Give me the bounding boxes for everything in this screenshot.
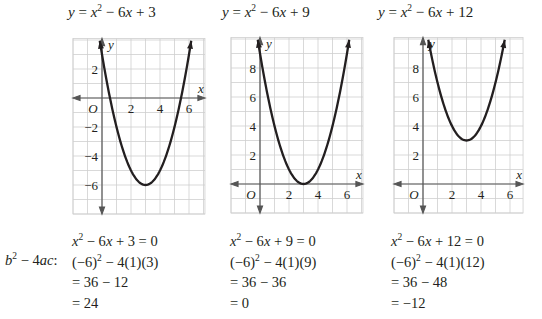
calc-sub-end: − 4(1)(3) bbox=[102, 254, 159, 270]
calculation-3: x2 − 6x + 12 = 0 (−6)2 − 4(1)(12) = 36 −… bbox=[391, 231, 485, 313]
calc-sub-end: − 4(1)(12) bbox=[421, 254, 485, 270]
x-axis-arrow-right-icon bbox=[516, 182, 523, 187]
calc-base: (−6) bbox=[391, 254, 416, 270]
calc-equation: x2 − 6x + 3 = 0 bbox=[72, 231, 158, 252]
x-tick-label: 6 bbox=[507, 187, 514, 202]
origin-label: O bbox=[409, 187, 419, 202]
discriminant-label: b2 − 4ac: bbox=[5, 252, 57, 269]
calc-result: = −12 bbox=[391, 293, 485, 314]
calc-step: = 36 − 36 bbox=[230, 272, 316, 293]
calc-step: = 36 − 12 bbox=[72, 272, 158, 293]
y-tick-label: 4 bbox=[413, 119, 420, 134]
calc-mid: − 6 bbox=[241, 233, 264, 249]
disc-ac: ac bbox=[40, 252, 54, 268]
calc-end: + 3 = 0 bbox=[112, 233, 157, 249]
calc-base: (−6) bbox=[72, 254, 97, 270]
calc-sub-end: − 4(1)(9) bbox=[260, 254, 317, 270]
calc-step: = 36 − 48 bbox=[391, 272, 485, 293]
calc-result: = 24 bbox=[72, 293, 158, 314]
y-tick-label: 8 bbox=[413, 61, 420, 76]
y-tick-label: 6 bbox=[413, 90, 420, 105]
calc-substitution: (−6)2 − 4(1)(3) bbox=[72, 252, 158, 273]
calc-substitution: (−6)2 − 4(1)(9) bbox=[230, 252, 316, 273]
calc-mid: − 6 bbox=[402, 233, 425, 249]
calc-end: + 12 = 0 bbox=[431, 233, 484, 249]
x-tick-label: 4 bbox=[478, 187, 485, 202]
x-axis-label: x bbox=[515, 167, 522, 182]
x-tick-label: 2 bbox=[449, 187, 456, 202]
calc-substitution: (−6)2 − 4(1)(12) bbox=[391, 252, 485, 273]
disc-colon: : bbox=[53, 252, 57, 268]
calc-base: (−6) bbox=[230, 254, 255, 270]
calc-equation: x2 − 6x + 9 = 0 bbox=[230, 231, 316, 252]
calc-mid: − 6 bbox=[83, 233, 106, 249]
calc-result: = 0 bbox=[230, 293, 316, 314]
calc-end: + 9 = 0 bbox=[270, 233, 315, 249]
calculation-2: x2 − 6x + 9 = 0 (−6)2 − 4(1)(9) = 36 − 3… bbox=[230, 231, 316, 313]
y-axis-arrow-down-icon bbox=[421, 206, 426, 213]
x-axis-arrow-left-icon bbox=[394, 182, 401, 187]
disc-minus-4: − 4 bbox=[17, 252, 40, 268]
calculation-1: x2 − 6x + 3 = 0 (−6)2 − 4(1)(3) = 36 − 1… bbox=[72, 231, 158, 313]
calc-equation: x2 − 6x + 12 = 0 bbox=[391, 231, 485, 252]
y-tick-label: 2 bbox=[413, 148, 420, 163]
